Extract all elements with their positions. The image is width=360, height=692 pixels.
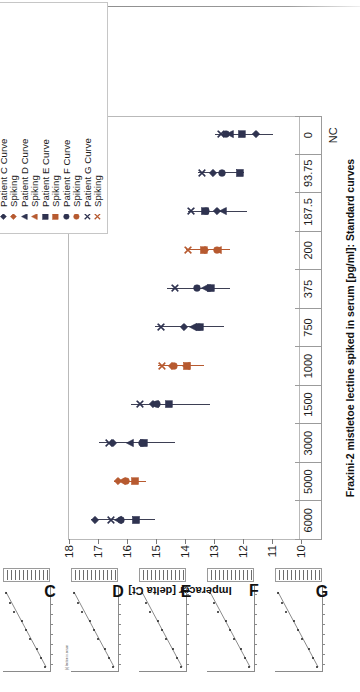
y-axis-tick-mark bbox=[127, 539, 128, 544]
thumbnail-data-point bbox=[301, 638, 303, 640]
legend-item[interactable]: Spiking bbox=[9, 12, 20, 224]
thumbnail-data-point bbox=[112, 666, 114, 668]
data-point-square bbox=[131, 477, 139, 485]
legend-item[interactable]: Spiking bbox=[72, 12, 83, 224]
thumbnail-axis-tick bbox=[50, 604, 53, 605]
thumbnail-axis-tick bbox=[118, 604, 121, 605]
thumbnail-axis-tick bbox=[50, 654, 53, 655]
thumbnail-axis-tick bbox=[118, 664, 121, 665]
thumbnail-axis-tick bbox=[50, 644, 53, 645]
data-point-square bbox=[132, 516, 140, 524]
legend-item[interactable]: Spiking bbox=[51, 12, 62, 224]
legend-marker-cross-icon bbox=[84, 210, 91, 224]
thumbnail-data-point bbox=[40, 657, 42, 659]
x-axis-category-label: 6000 bbox=[295, 501, 321, 540]
thumbnail-data-point bbox=[225, 620, 227, 622]
thumbnail-data-point bbox=[233, 638, 235, 640]
data-point-diamond bbox=[179, 323, 187, 331]
data-point-triangle bbox=[118, 477, 126, 485]
thumbnail-data-point bbox=[209, 592, 211, 594]
legend-marker-triangle-icon bbox=[31, 210, 38, 224]
thumbnail-axis-tick bbox=[186, 604, 189, 605]
data-point-circle bbox=[152, 400, 160, 408]
thumbnail-panel-letter: C bbox=[44, 583, 56, 601]
y-axis-tick-mark bbox=[272, 539, 273, 544]
thumbnail-chart-e[interactable]: E bbox=[136, 566, 198, 684]
thumbnail-data-point bbox=[108, 657, 110, 659]
legend-marker-diamond-icon bbox=[10, 210, 17, 224]
thumbnail-rotation-wrapper: C[c] lectine in serum bbox=[0, 566, 62, 684]
thumbnail-chart-f[interactable]: F bbox=[204, 566, 266, 684]
thumbnail-legend-box bbox=[139, 568, 186, 582]
thumbnail-data-point bbox=[244, 657, 246, 659]
legend-item[interactable]: Patient E Curve bbox=[40, 12, 51, 224]
x-axis-nc-label: NC bbox=[323, 116, 343, 155]
legend-item[interactable]: Patient D Curve bbox=[19, 12, 30, 224]
legend-marker-circle-icon bbox=[73, 210, 80, 224]
chart-title: Fraxini-2 mistletoe lectine spiked in se… bbox=[344, 116, 356, 540]
data-point-cross bbox=[158, 361, 166, 369]
x-axis-rule bbox=[321, 116, 322, 540]
thumbnail-rotation-wrapper: G bbox=[272, 566, 334, 684]
legend-item-label: Spiking bbox=[29, 175, 40, 207]
legend-item[interactable]: Patient G Curve bbox=[82, 12, 93, 224]
data-point-triangle bbox=[126, 438, 134, 446]
thumbnail-data-point bbox=[172, 648, 174, 650]
x-axis-category-label: 200 bbox=[295, 232, 321, 271]
thumbnail-chart-c[interactable]: C[c] lectine in serum bbox=[0, 566, 62, 684]
thumbnail-axis-tick bbox=[322, 634, 325, 635]
thumbnail-legend-box bbox=[3, 568, 50, 582]
thumbnail-axis-tick bbox=[322, 604, 325, 605]
data-point-diamond bbox=[252, 130, 260, 138]
data-point-circle bbox=[116, 516, 124, 524]
thumbnail-axis-tick bbox=[322, 654, 325, 655]
y-axis-tick-mark bbox=[243, 539, 244, 544]
legend-item[interactable]: Spiking bbox=[93, 12, 104, 224]
thumbnail-axis-tick bbox=[50, 664, 53, 665]
thumbnail-axis-tick bbox=[254, 664, 257, 665]
data-point-cross bbox=[184, 246, 192, 254]
thumbnail-data-point bbox=[281, 602, 283, 604]
legend-item[interactable]: Patient C Curve bbox=[0, 12, 9, 224]
thumbnail-data-point bbox=[81, 611, 83, 613]
thumbnail-data-point bbox=[141, 592, 143, 594]
thumbnail-data-point bbox=[248, 666, 250, 668]
thumbnail-axis-tick bbox=[186, 654, 189, 655]
legend-item[interactable]: Patient F Curve bbox=[61, 12, 72, 224]
legend-item[interactable]: Spiking bbox=[30, 12, 41, 224]
data-point-circle bbox=[192, 284, 200, 292]
thumbnail-axis-tick bbox=[254, 654, 257, 655]
data-point-circle bbox=[170, 361, 178, 369]
x-axis-category-label: 93.75 bbox=[295, 155, 321, 194]
y-axis-tick-mark bbox=[156, 539, 157, 544]
thumbnail-rotation-wrapper: F bbox=[204, 566, 266, 684]
thumbnail-data-point bbox=[89, 620, 91, 622]
data-point-cross bbox=[157, 323, 165, 331]
thumbnail-data-point bbox=[176, 657, 178, 659]
thumbnail-data-point bbox=[240, 648, 242, 650]
thumbnail-axis-tick bbox=[118, 614, 121, 615]
thumbnail-panel-letter: G bbox=[316, 583, 328, 601]
thumbnail-data-point bbox=[165, 638, 167, 640]
thumbnail-chart-g[interactable]: G bbox=[272, 566, 334, 684]
x-axis-category-label: 375 bbox=[295, 270, 321, 309]
thumbnail-data-point bbox=[277, 592, 279, 594]
thumbnail-data-point bbox=[13, 611, 15, 613]
data-point-cross bbox=[136, 400, 144, 408]
thumbnail-data-point bbox=[93, 629, 95, 631]
thumbnail-axis-tick bbox=[50, 634, 53, 635]
thumbnail-data-point bbox=[308, 648, 310, 650]
thumbnail-data-point bbox=[149, 611, 151, 613]
thumbnail-data-point bbox=[29, 638, 31, 640]
thumbnail-data-point bbox=[25, 629, 27, 631]
legend-marker-diamond-icon bbox=[0, 210, 7, 224]
x-axis-category-label: 1000 bbox=[295, 347, 321, 386]
data-point-triangle bbox=[214, 246, 222, 254]
thumbnail-chart-d[interactable]: D bbox=[68, 566, 130, 684]
thumbnail-data-point bbox=[312, 657, 314, 659]
thumbnail-data-point bbox=[316, 666, 318, 668]
legend: Patient C CurveSpikingPatient D CurveSpi… bbox=[0, 2, 108, 234]
thumbnail-data-point bbox=[36, 648, 38, 650]
legend-rotation-wrapper: Patient C CurveSpikingPatient D CurveSpi… bbox=[0, 100, 230, 234]
legend-item-label: Spiking bbox=[92, 175, 103, 207]
